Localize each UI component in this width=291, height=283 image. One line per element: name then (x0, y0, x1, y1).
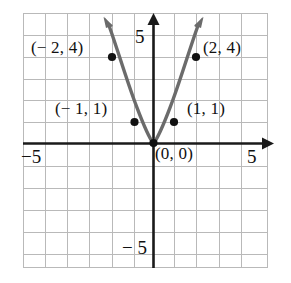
point-label-neg1-1: (− 1, 1) (55, 100, 107, 117)
point-neg2-4 (108, 53, 116, 61)
y-axis-tick-label-positive-5: 5 (135, 27, 145, 46)
point-neg1-1 (130, 118, 138, 126)
point-1-1 (170, 118, 178, 126)
point-label-1-1: (1, 1) (187, 100, 225, 117)
point-2-4 (192, 53, 200, 61)
point-label-neg2-4: (− 2, 4) (31, 39, 83, 56)
y-axis-tick-label-negative-5: − 5 (122, 238, 147, 257)
x-axis-tick-label-positive-5: 5 (247, 147, 257, 166)
point-label-0-0: (0, 0) (155, 145, 193, 162)
point-label-2-4: (2, 4) (203, 39, 241, 56)
graph-figure: (− 2, 4) (− 1, 1) (0, 0) (1, 1) (2, 4) 5… (0, 0, 291, 283)
x-axis-tick-label-negative-5: −5 (21, 147, 41, 166)
